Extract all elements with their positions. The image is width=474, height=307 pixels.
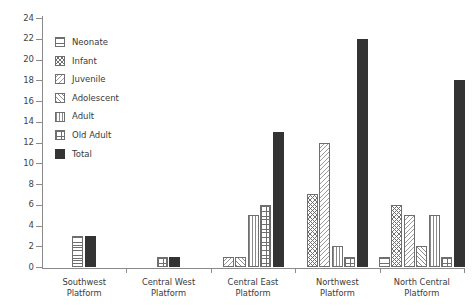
bar-central-west-platform-old-adult: [157, 257, 168, 267]
y-axis-tick-label: 24: [8, 14, 34, 23]
bar-central-east-platform-adult: [248, 215, 259, 267]
legend-item-total[interactable]: Total: [55, 145, 119, 164]
legend-item-infant[interactable]: Infant: [55, 52, 119, 71]
bar-central-east-platform-total: [273, 132, 284, 267]
x-axis-tick: [295, 268, 296, 273]
x-axis-group-label-line2: Platform: [211, 288, 295, 299]
x-axis-tick: [126, 268, 127, 273]
legend-swatch-icon: [55, 74, 65, 84]
y-axis-tick: [36, 143, 42, 144]
x-axis-group-label: Central EastPlatform: [211, 277, 295, 299]
bar-northwest-platform-infant: [307, 194, 318, 267]
y-axis-tick-label: 6: [8, 200, 34, 209]
legend-label: Infant: [72, 57, 97, 66]
x-axis-group-label-line1: Southwest: [42, 277, 126, 288]
legend-item-old-adult[interactable]: Old Adult: [55, 126, 119, 145]
legend-swatch-icon: [55, 149, 65, 159]
x-axis-tick: [380, 268, 381, 273]
bar-northwest-platform-old-adult: [344, 257, 355, 267]
legend-swatch-icon: [55, 93, 65, 103]
bar-central-east-platform-adolescent: [235, 257, 246, 267]
y-axis-tick: [36, 60, 42, 61]
x-axis-group-label: Central WestPlatform: [126, 277, 210, 299]
legend-label: Adult: [72, 112, 94, 121]
legend-item-adult[interactable]: Adult: [55, 107, 119, 126]
legend-label: Adolescent: [72, 94, 119, 103]
x-axis-group-label-line1: Central East: [211, 277, 295, 288]
x-axis-line: [42, 268, 464, 269]
y-axis-tick: [36, 101, 42, 102]
legend-label: Total: [72, 150, 92, 159]
x-axis-group-label: NorthwestPlatform: [295, 277, 379, 299]
x-axis-group-label-line2: Platform: [380, 288, 464, 299]
bar-north-central-platform-juvenile: [404, 215, 415, 267]
bar-southwest-platform-total: [85, 236, 96, 267]
legend-item-juvenile[interactable]: Juvenile: [55, 70, 119, 89]
bar-central-east-platform-old-adult: [260, 205, 271, 267]
y-axis-tick-label: 8: [8, 180, 34, 189]
y-axis-tick-label: 0: [8, 263, 34, 272]
y-axis-labels: 024681012141618202224: [0, 0, 34, 307]
y-axis-tick: [36, 18, 42, 19]
legend-swatch-icon: [55, 37, 65, 47]
y-axis-tick-label: 18: [8, 76, 34, 85]
bar-north-central-platform-adolescent: [416, 246, 427, 267]
y-axis-tick-label: 16: [8, 97, 34, 106]
legend-label: Old Adult: [72, 131, 111, 140]
y-axis-tick: [36, 246, 42, 247]
bar-northwest-platform-adult: [332, 246, 343, 267]
bar-central-west-platform-total: [169, 257, 180, 267]
y-axis-tick: [36, 39, 42, 40]
bar-north-central-platform-neonate: [379, 257, 390, 267]
y-axis-tick: [36, 163, 42, 164]
x-axis-group-label-line1: Northwest: [295, 277, 379, 288]
y-axis-tick-label: 2: [8, 242, 34, 251]
bar-central-east-platform-juvenile: [223, 257, 234, 267]
legend-label: Neonate: [72, 38, 108, 47]
legend-swatch-icon: [55, 112, 65, 122]
x-axis-group-label-line2: Platform: [126, 288, 210, 299]
y-axis-tick-label: 14: [8, 117, 34, 126]
bar-northwest-platform-juvenile: [319, 143, 330, 268]
y-axis-tick-label: 22: [8, 34, 34, 43]
y-axis-tick: [36, 226, 42, 227]
y-axis-tick-label: 12: [8, 138, 34, 147]
y-axis-tick-label: 4: [8, 221, 34, 230]
x-axis-group-label: North CentralPlatform: [380, 277, 464, 299]
legend-swatch-icon: [55, 56, 65, 66]
legend-swatch-icon: [55, 130, 65, 140]
legend-item-adolescent[interactable]: Adolescent: [55, 89, 119, 108]
x-axis-group-label-line2: Platform: [295, 288, 379, 299]
y-axis-tick: [36, 80, 42, 81]
bar-north-central-platform-adult: [429, 215, 440, 267]
x-axis-group-label-line2: Platform: [42, 288, 126, 299]
y-axis-tick: [36, 205, 42, 206]
bar-north-central-platform-total: [454, 80, 465, 267]
x-axis-group-label: SouthwestPlatform: [42, 277, 126, 299]
x-axis-group-label-line1: Central West: [126, 277, 210, 288]
bar-north-central-platform-infant: [391, 205, 402, 267]
y-axis-tick: [36, 184, 42, 185]
y-axis-tick: [36, 267, 42, 268]
legend-label: Juvenile: [72, 75, 106, 84]
x-axis-group-label-line1: North Central: [380, 277, 464, 288]
bar-north-central-platform-old-adult: [441, 257, 452, 267]
bar-northwest-platform-total: [357, 39, 368, 267]
x-axis-tick: [211, 268, 212, 273]
legend-item-neonate[interactable]: Neonate: [55, 33, 119, 52]
y-axis-tick-label: 10: [8, 159, 34, 168]
x-axis-tick: [464, 268, 465, 273]
bar-chart: 024681012141618202224 NeonateInfantJuven…: [0, 0, 474, 307]
y-axis-tick-label: 20: [8, 55, 34, 64]
chart-legend: NeonateInfantJuvenileAdolescentAdultOld …: [55, 33, 119, 163]
y-axis-tick: [36, 122, 42, 123]
bar-southwest-platform-neonate: [72, 236, 83, 267]
